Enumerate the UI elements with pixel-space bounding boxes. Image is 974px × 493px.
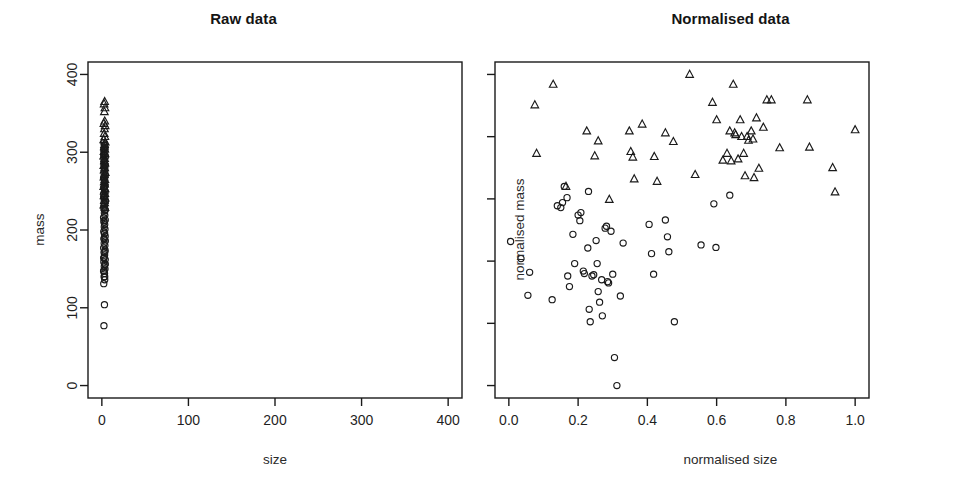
data-point-triangle	[740, 149, 748, 156]
data-point-circle	[549, 297, 555, 303]
data-point-triangle	[709, 98, 717, 105]
x-tick-label: 300	[350, 412, 374, 428]
data-point-triangle	[747, 127, 755, 134]
y-tick-label: 200	[64, 218, 80, 242]
data-point-circle	[595, 289, 601, 295]
data-point-circle	[591, 272, 597, 278]
data-point-triangle	[806, 143, 814, 150]
data-point-circle	[565, 273, 571, 279]
scatter-plot-raw: 01002003004000100200300400	[0, 0, 487, 493]
axis-label-x-raw: size	[0, 452, 519, 467]
data-point-triangle	[626, 127, 634, 134]
data-point-triangle	[750, 174, 758, 181]
data-point-circle	[577, 218, 583, 224]
x-tick-label: 0.8	[776, 412, 796, 428]
x-tick-label: 1.0	[845, 412, 865, 428]
data-point-triangle	[662, 129, 670, 136]
data-point-circle	[646, 221, 652, 227]
data-point-circle	[713, 244, 719, 250]
y-tick-label: 0	[64, 381, 80, 389]
data-point-triangle	[531, 101, 539, 108]
data-point-triangle	[723, 149, 731, 156]
data-point-circle	[608, 228, 614, 234]
data-point-circle	[662, 217, 668, 223]
data-point-circle	[648, 251, 654, 257]
data-point-triangle	[549, 80, 557, 87]
data-point-triangle	[653, 177, 661, 184]
data-point-circle	[617, 293, 623, 299]
data-point-triangle	[605, 195, 613, 202]
y-tick-label: 400	[64, 63, 80, 87]
series-circles	[507, 183, 732, 388]
data-point-circle	[593, 237, 599, 243]
data-point-triangle	[594, 137, 602, 144]
data-point-circle	[596, 299, 602, 305]
data-point-circle	[666, 249, 672, 255]
data-point-circle	[527, 269, 533, 275]
data-point-triangle	[583, 127, 591, 134]
data-point-triangle	[729, 80, 737, 87]
data-point-circle	[620, 240, 626, 246]
x-tick-label: 0.4	[638, 412, 658, 428]
data-point-triangle	[727, 157, 735, 164]
data-point-triangle	[753, 114, 761, 121]
y-tick-label: 100	[64, 296, 80, 320]
data-point-circle	[572, 261, 578, 267]
data-point-circle	[671, 319, 677, 325]
axis-label-x-normalised: normalised size	[487, 452, 974, 467]
data-point-triangle	[831, 188, 839, 195]
axis-label-y-normalised: normalised mass	[512, 150, 527, 310]
data-point-circle	[594, 261, 600, 267]
data-point-triangle	[776, 144, 784, 151]
data-point-triangle	[691, 170, 699, 177]
data-point-triangle	[760, 123, 768, 130]
data-point-triangle	[851, 126, 859, 133]
data-point-circle	[101, 302, 107, 308]
x-tick-label: 0.6	[707, 412, 727, 428]
x-tick-label: 100	[177, 412, 201, 428]
data-point-circle	[614, 382, 620, 388]
data-points-layer	[507, 70, 858, 388]
data-point-circle	[585, 188, 591, 194]
data-point-triangle	[638, 120, 646, 127]
data-point-circle	[610, 271, 616, 277]
data-point-circle	[611, 354, 617, 360]
x-tick-label: 200	[263, 412, 287, 428]
data-point-triangle	[804, 96, 812, 103]
panel-raw-data: Raw data 01002003004000100200300400 size…	[0, 0, 487, 493]
data-point-circle	[587, 319, 593, 325]
scatter-plot-normalised: 0.00.20.40.60.81.00.00.20.40.60.81.0	[487, 0, 974, 493]
data-point-circle	[664, 234, 670, 240]
x-tick-label: 0	[98, 412, 106, 428]
x-tick-label: 0.0	[499, 412, 519, 428]
data-point-triangle	[670, 137, 678, 144]
data-point-circle	[564, 195, 570, 201]
data-point-triangle	[829, 164, 837, 171]
data-point-circle	[698, 242, 704, 248]
data-point-circle	[599, 277, 605, 283]
x-tick-label: 0.2	[568, 412, 588, 428]
axis-label-y-raw: mass	[32, 185, 47, 275]
data-point-triangle	[713, 116, 721, 123]
data-point-triangle	[741, 172, 749, 179]
data-point-circle	[727, 192, 733, 198]
data-point-triangle	[686, 70, 694, 77]
data-point-circle	[599, 313, 605, 319]
series-triangles	[531, 70, 859, 202]
data-point-triangle	[533, 149, 541, 156]
data-point-circle	[570, 231, 576, 237]
data-point-triangle	[630, 175, 638, 182]
plot-box	[88, 62, 462, 398]
data-point-circle	[101, 323, 107, 329]
data-points-layer	[100, 97, 109, 328]
data-point-circle	[711, 201, 717, 207]
series-triangles	[100, 97, 109, 210]
data-point-triangle	[755, 164, 763, 171]
data-point-triangle	[719, 156, 727, 163]
figure-container: Raw data 01002003004000100200300400 size…	[0, 0, 974, 493]
data-point-circle	[651, 271, 657, 277]
panel-normalised-data: Normalised data 0.00.20.40.60.81.00.00.2…	[487, 0, 974, 493]
plot-box	[495, 62, 869, 398]
data-point-triangle	[736, 116, 744, 123]
data-point-circle	[586, 306, 592, 312]
